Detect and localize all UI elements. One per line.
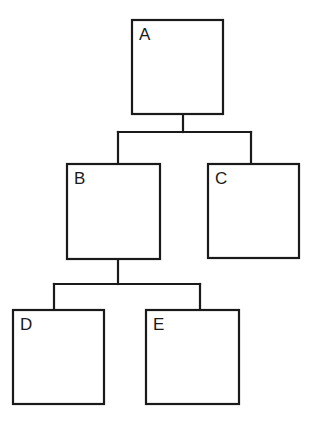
node-label-d: D	[20, 315, 32, 334]
node-a: A	[132, 20, 223, 114]
node-label-b: B	[74, 169, 85, 188]
node-e: E	[146, 310, 239, 404]
tree-diagram-svg: ABCDE	[0, 0, 321, 428]
node-label-e: E	[153, 315, 164, 334]
tree-diagram: ABCDE	[0, 0, 321, 428]
node-label-a: A	[139, 25, 151, 44]
nodes-layer: ABCDE	[13, 20, 299, 404]
node-d: D	[13, 310, 104, 404]
node-c: C	[208, 164, 299, 258]
node-label-c: C	[215, 169, 227, 188]
node-b: B	[67, 164, 160, 259]
